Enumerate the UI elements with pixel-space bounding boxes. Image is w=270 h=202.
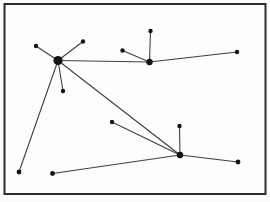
graph-node-n10 xyxy=(236,160,241,165)
graph-node-hub-c xyxy=(177,152,183,158)
graph-node-n7 xyxy=(235,50,239,54)
graph-node-n11 xyxy=(50,171,55,176)
network-figure-svg xyxy=(0,0,270,202)
graph-edge-hub-c-n9 xyxy=(180,126,181,155)
graph-node-hub-a xyxy=(53,56,62,65)
graph-node-n6 xyxy=(148,29,152,33)
graph-node-n2 xyxy=(81,39,85,43)
graph-node-hub-b xyxy=(146,59,152,65)
figure-frame xyxy=(5,4,266,194)
network-figure xyxy=(0,0,270,202)
graph-node-n9 xyxy=(177,124,181,128)
graph-node-n4 xyxy=(17,170,22,175)
graph-node-n5 xyxy=(120,48,124,52)
graph-node-n3 xyxy=(61,89,65,93)
graph-node-n1 xyxy=(34,44,38,48)
graph-node-n8 xyxy=(110,120,114,124)
